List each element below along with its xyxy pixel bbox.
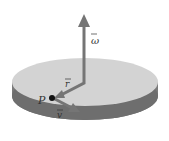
r-label: r <box>65 79 70 89</box>
rotating-disk-diagram: ω r v P <box>0 0 169 141</box>
v-label: v <box>57 110 62 120</box>
point-p <box>49 95 55 101</box>
point-p-label: P <box>37 94 46 107</box>
omega-arrow-head-icon <box>78 14 90 27</box>
omega-label: ω <box>91 35 99 46</box>
